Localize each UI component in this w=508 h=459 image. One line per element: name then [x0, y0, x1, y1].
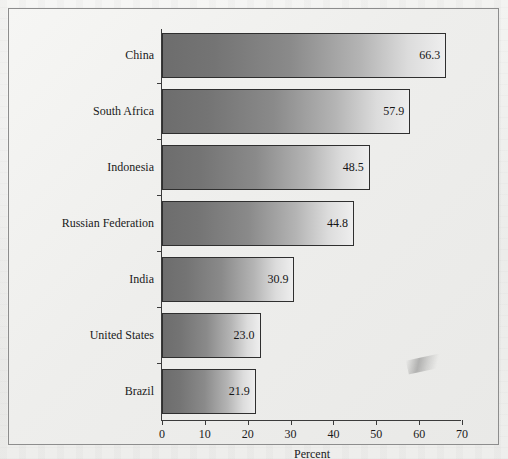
bar-row: 21.9 [162, 369, 462, 414]
bar-row: 30.9 [162, 257, 462, 302]
plot-area: 66.357.948.544.830.923.021.9 01020304050… [161, 29, 461, 421]
category-tick [157, 195, 162, 196]
category-label: Russian Federation [14, 201, 154, 246]
x-axis-tick [333, 420, 334, 425]
category-tick [157, 307, 162, 308]
x-axis-tick [248, 420, 249, 425]
category-label: China [14, 33, 154, 78]
x-axis-tick-label: 40 [313, 427, 353, 442]
bar-row: 44.8 [162, 201, 462, 246]
category-label: Brazil [14, 369, 154, 414]
category-tick [157, 83, 162, 84]
bar-row: 66.3 [162, 33, 462, 78]
bar-value-label: 66.3 [398, 33, 440, 78]
bar-value-label: 44.8 [306, 201, 348, 246]
x-axis-tick-label: 60 [399, 427, 439, 442]
x-axis-tick-label: 0 [142, 427, 182, 442]
x-axis-tick-label: 50 [356, 427, 396, 442]
figure-page: 66.357.948.544.830.923.021.9 01020304050… [0, 0, 508, 459]
bar-row: 48.5 [162, 145, 462, 190]
x-axis-tick [205, 420, 206, 425]
bar-row: 57.9 [162, 89, 462, 134]
bar-row: 23.0 [162, 313, 462, 358]
category-label: South Africa [14, 89, 154, 134]
x-axis-tick-label: 10 [185, 427, 225, 442]
figure-frame: 66.357.948.544.830.923.021.9 01020304050… [8, 8, 499, 445]
bar-value-label: 23.0 [213, 313, 255, 358]
category-tick [157, 139, 162, 140]
x-axis-tick [291, 420, 292, 425]
bar-value-label: 21.9 [208, 369, 250, 414]
x-axis-title: Percent [162, 447, 462, 459]
category-label: United States [14, 313, 154, 358]
category-label: Indonesia [14, 145, 154, 190]
category-tick [157, 363, 162, 364]
category-label: India [14, 257, 154, 302]
x-axis-tick [462, 420, 463, 425]
x-axis-tick-label: 20 [228, 427, 268, 442]
bar-value-label: 30.9 [246, 257, 288, 302]
x-axis-tick [419, 420, 420, 425]
category-tick [157, 251, 162, 252]
bar-value-label: 48.5 [322, 145, 364, 190]
x-axis-tick [162, 420, 163, 425]
bar-value-label: 57.9 [362, 89, 404, 134]
x-axis-tick-label: 30 [271, 427, 311, 442]
x-axis-tick [376, 420, 377, 425]
x-axis-tick-label: 70 [442, 427, 482, 442]
